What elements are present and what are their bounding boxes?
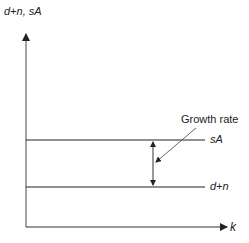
growth-rate-label: Growth rate	[181, 114, 238, 125]
growth-rate-pointer	[156, 128, 196, 162]
x-axis-label: k	[230, 221, 236, 233]
y-axis-label: d+n, sA	[4, 6, 42, 17]
sa-line-label: sA	[210, 134, 223, 145]
dn-line-label: d+n	[210, 181, 229, 192]
